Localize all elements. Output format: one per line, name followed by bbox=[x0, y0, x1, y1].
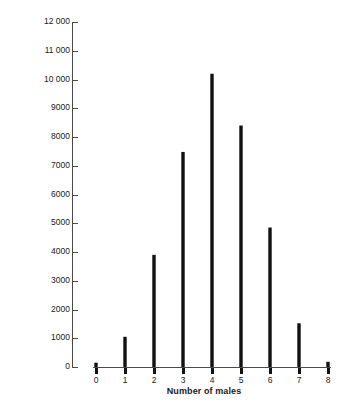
frequency-histogram: Frequency 010002000300040005000600070008… bbox=[0, 0, 357, 409]
x-axis-tick-label: 2 bbox=[144, 375, 164, 385]
x-axis-tick-label: 8 bbox=[318, 375, 338, 385]
x-axis-tick-label: 4 bbox=[202, 375, 222, 385]
x-axis-title: Number of males bbox=[72, 386, 336, 396]
x-axis-tick-label: 7 bbox=[289, 375, 309, 385]
x-axis-tick-labels: 012345678 bbox=[0, 0, 357, 409]
x-axis-tick-label: 5 bbox=[231, 375, 251, 385]
x-axis-tick-label: 6 bbox=[260, 375, 280, 385]
x-axis-tick-label: 3 bbox=[173, 375, 193, 385]
x-axis-tick-label: 0 bbox=[86, 375, 106, 385]
x-axis-tick-label: 1 bbox=[115, 375, 135, 385]
